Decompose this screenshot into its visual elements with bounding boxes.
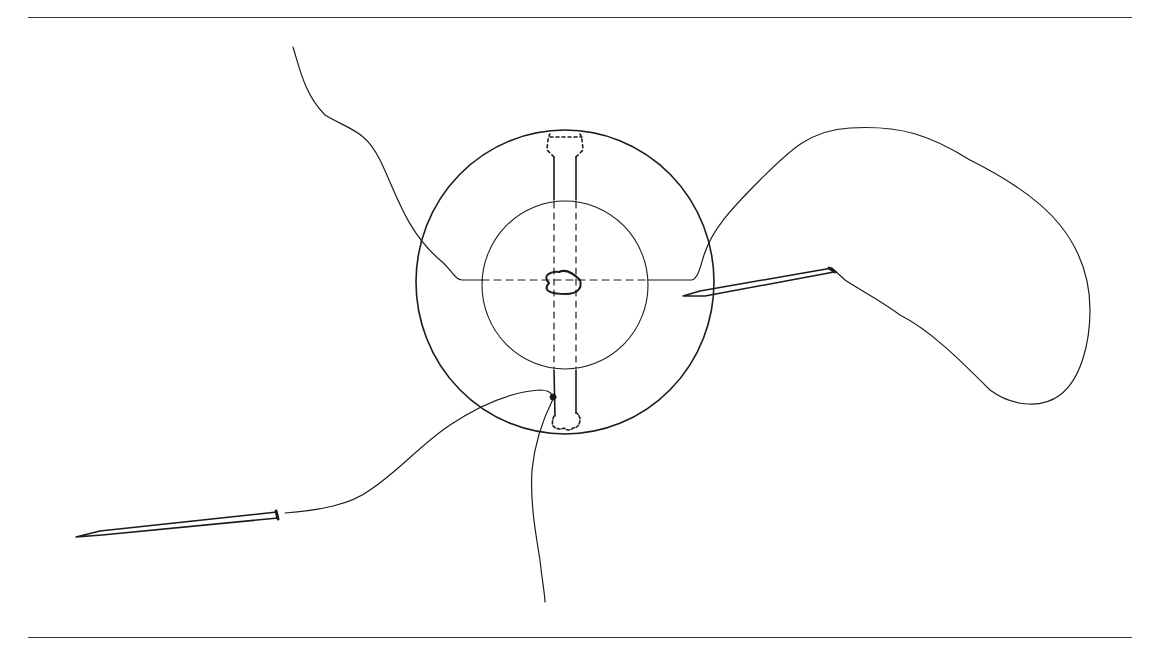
thread-bottom-left xyxy=(285,390,553,513)
inner-circle xyxy=(482,201,648,369)
right-needle xyxy=(683,268,835,296)
thread-bottom xyxy=(532,399,553,602)
vertical-channel xyxy=(547,134,583,430)
outer-circle xyxy=(416,130,714,434)
thread-top-left xyxy=(293,47,482,280)
diagram-canvas xyxy=(0,0,1158,651)
left-needle xyxy=(76,511,278,537)
thread-right-loop xyxy=(648,127,1090,404)
